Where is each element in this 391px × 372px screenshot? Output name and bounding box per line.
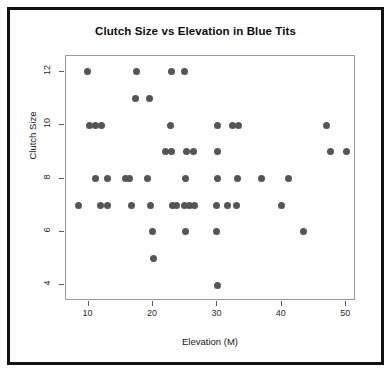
x-axis-tick bbox=[216, 301, 217, 306]
y-axis-tick bbox=[59, 231, 64, 232]
data-point bbox=[150, 255, 157, 262]
data-point bbox=[183, 148, 190, 155]
x-axis-tick bbox=[88, 301, 89, 306]
data-point bbox=[75, 202, 82, 209]
data-point bbox=[133, 68, 140, 75]
plot-area-wrapper: Clutch Size vs Elevation in Blue Tits El… bbox=[0, 0, 391, 372]
x-axis-tick bbox=[345, 301, 346, 306]
data-point bbox=[235, 122, 242, 129]
data-point bbox=[214, 175, 221, 182]
data-point bbox=[182, 228, 189, 235]
x-axis-tick bbox=[281, 301, 282, 306]
data-point bbox=[167, 122, 174, 129]
data-point bbox=[173, 202, 180, 209]
data-point bbox=[224, 202, 231, 209]
data-point bbox=[190, 148, 197, 155]
y-axis-tick bbox=[59, 124, 64, 125]
x-axis-tick-label: 10 bbox=[73, 308, 103, 318]
data-point bbox=[213, 202, 220, 209]
data-point bbox=[182, 175, 189, 182]
x-axis-tick-label: 40 bbox=[266, 308, 296, 318]
data-point bbox=[234, 175, 241, 182]
data-point bbox=[147, 202, 154, 209]
y-axis-tick-label: 6 bbox=[42, 219, 52, 241]
y-axis-tick-label: 4 bbox=[42, 272, 52, 294]
data-point bbox=[149, 228, 156, 235]
data-point bbox=[97, 202, 104, 209]
data-point bbox=[146, 95, 153, 102]
data-point bbox=[104, 202, 111, 209]
data-point bbox=[285, 175, 292, 182]
data-point bbox=[213, 228, 220, 235]
data-point bbox=[98, 122, 105, 129]
data-point bbox=[92, 175, 99, 182]
x-axis-tick-label: 30 bbox=[201, 308, 231, 318]
data-point bbox=[126, 175, 133, 182]
x-axis-label: Elevation (M) bbox=[65, 336, 355, 347]
data-point bbox=[327, 148, 334, 155]
data-point bbox=[144, 175, 151, 182]
data-point bbox=[300, 228, 307, 235]
y-axis-tick-label: 12 bbox=[42, 59, 52, 81]
data-point bbox=[233, 202, 240, 209]
data-point bbox=[84, 68, 91, 75]
y-axis-tick-label: 8 bbox=[42, 166, 52, 188]
data-point bbox=[191, 202, 198, 209]
data-point bbox=[278, 202, 285, 209]
y-axis-label: Clutch Size bbox=[27, 86, 38, 186]
data-point bbox=[214, 148, 221, 155]
x-axis-tick-label: 20 bbox=[137, 308, 167, 318]
scatter-plot-figure: Clutch Size vs Elevation in Blue Tits El… bbox=[0, 0, 391, 372]
data-point bbox=[343, 148, 350, 155]
x-axis-tick-label: 50 bbox=[330, 308, 360, 318]
y-axis-tick bbox=[59, 284, 64, 285]
data-point bbox=[132, 95, 139, 102]
data-point bbox=[323, 122, 330, 129]
data-point bbox=[214, 282, 221, 289]
data-point bbox=[214, 122, 221, 129]
data-point bbox=[104, 175, 111, 182]
y-axis-tick bbox=[59, 178, 64, 179]
data-point bbox=[168, 148, 175, 155]
plot-panel bbox=[65, 55, 355, 300]
y-axis-tick-label: 10 bbox=[42, 112, 52, 134]
data-point bbox=[258, 175, 265, 182]
data-point bbox=[128, 202, 135, 209]
x-axis-tick bbox=[152, 301, 153, 306]
chart-title: Clutch Size vs Elevation in Blue Tits bbox=[0, 25, 391, 37]
data-point bbox=[181, 68, 188, 75]
y-axis-tick bbox=[59, 71, 64, 72]
data-point bbox=[168, 68, 175, 75]
